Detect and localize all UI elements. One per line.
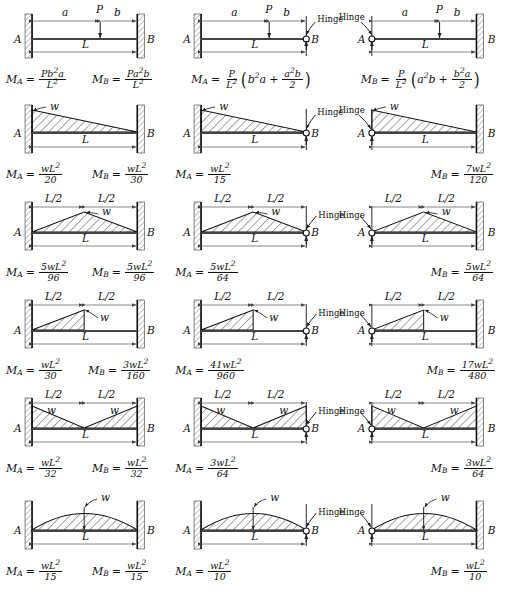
diagram-cell-r6c1: A B w L MA = wL2 15 MB = wL2 15	[0, 483, 169, 591]
beam-diagram-r5c2	[169, 386, 338, 483]
beam-diagram-r1c1	[0, 0, 169, 95]
beam-diagram-r6c3	[339, 483, 508, 591]
diagram-cell-r4c2: A B L/2 L/2 w L Hinge MA = 41wL2 960	[169, 288, 338, 386]
beam-diagram-r6c1	[0, 483, 169, 591]
beam-diagram-r1c2	[169, 0, 338, 95]
diagram-cell-r4c3: A B L/2 L/2 w L Hinge MB = 17wL2 480	[339, 288, 508, 386]
beam-diagram-r2c1	[0, 95, 169, 190]
beam-diagram-r1c3	[339, 0, 508, 95]
beam-diagram-r4c3	[339, 288, 508, 386]
beam-diagram-r6c2	[169, 483, 338, 591]
beam-diagram-r3c3	[339, 190, 508, 288]
diagram-cell-r4c1: A B L/2 L/2 w L MA = wL2 30 MB = 3wL2 16…	[0, 288, 169, 386]
beam-diagram-r3c1	[0, 190, 169, 288]
beam-diagram-r5c1	[0, 386, 169, 483]
beam-diagram-r4c2	[169, 288, 338, 386]
diagram-cell-r5c1: A B L/2 L/2 w w L MA = wL2 32 MB = wL2 3…	[0, 386, 169, 483]
beam-diagram-r3c2	[169, 190, 338, 288]
diagram-cell-r3c1: A B L/2 L/2 w L MA = 5wL2 96 MB = 5wL2 9…	[0, 190, 169, 288]
diagram-cell-r1c1: A B a b L P MA = Pb2a L2 MB = Pa2b L2	[0, 0, 169, 95]
diagram-cell-r6c2: A B w L Hinge MA = wL2 10	[169, 483, 338, 591]
diagram-cell-r5c2: A B L/2 L/2 w w L Hinge MA = 3wL2 64	[169, 386, 338, 483]
beam-diagram-r2c3	[339, 95, 508, 190]
diagram-cell-r1c3: A B a b L P Hinge MB = P L2 ( a2b + b2a …	[339, 0, 508, 95]
fixed-end-moment-chart: A B a b L P MA = Pb2a L2 MB = Pa2b L2	[0, 0, 508, 601]
beam-diagram-r5c3	[339, 386, 508, 483]
diagram-cell-r6c3: A B w L Hinge MB = wL2 10	[339, 483, 508, 591]
beam-diagram-r4c1	[0, 288, 169, 386]
diagram-cell-r2c1: A B w L MA = wL2 20 MB = wL2 30	[0, 95, 169, 190]
diagram-cell-r2c2: A B w L Hinge MA = wL2 15	[169, 95, 338, 190]
diagram-cell-r5c3: A B L/2 L/2 w w L Hinge MB = 3wL2 64	[339, 386, 508, 483]
diagram-cell-r3c3: A B L/2 L/2 w L Hinge MB = 5wL2 64	[339, 190, 508, 288]
diagram-cell-r2c3: A B w L Hinge MB = 7wL2 120	[339, 95, 508, 190]
diagram-cell-r3c2: A B L/2 L/2 w L Hinge MA = 5wL2 64	[169, 190, 338, 288]
beam-diagram-r2c2	[169, 95, 338, 190]
diagram-cell-r1c2: A B a b L P Hinge MA = P L2 ( b2a + a2b …	[169, 0, 338, 95]
